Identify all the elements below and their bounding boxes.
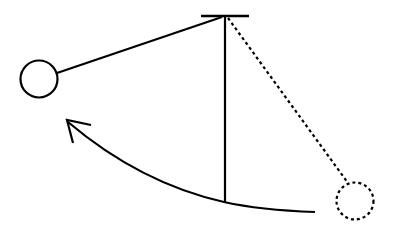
swing-arc xyxy=(68,122,315,212)
start-string xyxy=(228,18,348,183)
swung-string xyxy=(57,17,222,73)
swung-bob xyxy=(21,61,58,98)
pendulum-diagram xyxy=(0,0,393,230)
start-bob xyxy=(337,183,374,220)
